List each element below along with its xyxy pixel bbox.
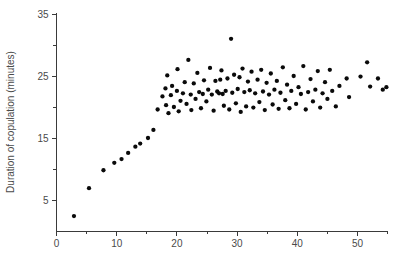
data-point xyxy=(177,109,181,113)
data-point xyxy=(296,85,300,89)
data-point xyxy=(227,107,231,111)
data-point xyxy=(311,99,315,103)
data-point xyxy=(365,60,369,64)
y-axis-label: Duration of copulation (minutes) xyxy=(5,51,16,193)
data-point xyxy=(211,109,215,113)
data-point xyxy=(264,81,268,85)
data-point xyxy=(163,86,167,90)
data-point xyxy=(320,91,324,95)
x-axis: 01020304050 xyxy=(54,231,388,249)
data-point xyxy=(323,80,327,84)
data-point xyxy=(146,136,150,140)
data-point xyxy=(345,76,349,80)
data-point xyxy=(358,74,362,78)
data-point xyxy=(325,97,329,101)
x-tick-label: 10 xyxy=(111,238,123,249)
data-point xyxy=(183,80,187,84)
data-point xyxy=(384,85,388,89)
data-point xyxy=(301,64,305,68)
data-point xyxy=(189,92,193,96)
data-point xyxy=(289,89,293,93)
data-point xyxy=(263,108,267,112)
data-point xyxy=(244,104,248,108)
data-point xyxy=(376,76,380,80)
data-point xyxy=(278,91,282,95)
data-point xyxy=(218,78,222,82)
data-point xyxy=(304,107,308,111)
data-point xyxy=(230,91,234,95)
data-point xyxy=(181,91,185,95)
data-point xyxy=(248,88,252,92)
plot-canvas: 5152535 01020304050 Duration of copulati… xyxy=(0,0,403,266)
data-point xyxy=(299,92,303,96)
y-tick-label: 35 xyxy=(37,9,49,20)
data-point xyxy=(267,92,271,96)
data-point xyxy=(249,70,253,74)
data-point xyxy=(204,99,208,103)
data-point xyxy=(275,79,279,83)
data-point xyxy=(192,81,196,85)
data-point xyxy=(201,92,205,96)
data-point xyxy=(112,161,116,165)
data-point xyxy=(175,89,179,93)
data-point xyxy=(259,68,263,72)
data-point xyxy=(126,151,130,155)
data-point xyxy=(170,84,174,88)
data-point xyxy=(225,76,229,80)
y-tick-label: 25 xyxy=(37,71,49,82)
data-point xyxy=(257,100,261,104)
data-point xyxy=(255,78,259,82)
data-point xyxy=(368,84,372,88)
data-point xyxy=(138,141,142,145)
y-tick-label: 15 xyxy=(37,133,49,144)
x-tick-label: 0 xyxy=(54,238,60,249)
data-point xyxy=(281,65,285,69)
data-point xyxy=(166,111,170,115)
data-point xyxy=(269,71,273,75)
data-point xyxy=(239,110,243,114)
data-point xyxy=(172,105,176,109)
data-point xyxy=(217,91,221,95)
data-point xyxy=(184,102,188,106)
data-point xyxy=(186,58,190,62)
data-point xyxy=(119,157,123,161)
y-axis: 5152535 xyxy=(37,9,56,231)
data-point xyxy=(232,73,236,77)
data-point xyxy=(164,103,168,107)
data-point xyxy=(347,95,351,99)
data-point xyxy=(246,79,250,83)
data-point xyxy=(101,168,105,172)
x-tick-label: 40 xyxy=(292,238,304,249)
data-point xyxy=(287,106,291,110)
data-point xyxy=(330,89,334,93)
data-point xyxy=(242,90,246,94)
data-point xyxy=(202,78,206,82)
x-tick-label: 30 xyxy=(232,238,244,249)
data-point xyxy=(337,84,341,88)
data-point xyxy=(253,91,257,95)
data-point xyxy=(178,99,182,103)
scatter-plot-figure: 5152535 01020304050 Duration of copulati… xyxy=(0,0,403,266)
data-point xyxy=(210,92,214,96)
data-point xyxy=(87,186,91,190)
data-point xyxy=(318,105,322,109)
x-tick-label: 20 xyxy=(171,238,183,249)
data-point xyxy=(72,214,76,218)
data-point xyxy=(189,108,193,112)
data-point xyxy=(224,89,228,93)
data-point xyxy=(328,68,332,72)
data-point xyxy=(175,67,179,71)
data-point xyxy=(334,104,338,108)
data-point xyxy=(294,102,298,106)
data-point xyxy=(169,93,173,97)
data-point xyxy=(160,94,164,98)
data-point xyxy=(306,90,310,94)
data-point xyxy=(199,106,203,110)
data-point xyxy=(193,97,197,101)
y-tick-label: 5 xyxy=(43,195,49,206)
data-point xyxy=(270,102,274,106)
data-point xyxy=(285,83,289,87)
data-point xyxy=(155,107,159,111)
data-point xyxy=(313,87,317,91)
data-point xyxy=(283,98,287,102)
